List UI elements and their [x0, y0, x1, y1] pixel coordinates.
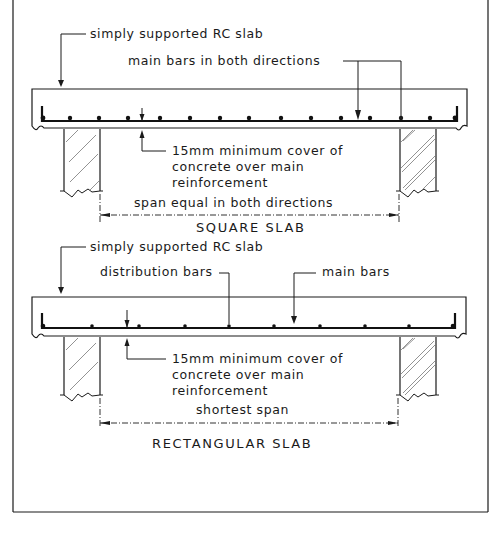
span-label: shortest span — [196, 402, 289, 417]
rectangular-slab-section: simply supported RC slab distribution ba… — [32, 239, 466, 451]
cover-label-line3: reinforcement — [172, 383, 268, 398]
square-slab-section: simply supported RC slab main bars in bo… — [32, 26, 467, 235]
span-label: span equal in both directions — [134, 195, 333, 210]
slab-body — [32, 297, 466, 338]
distribution-bars-label: distribution bars — [100, 264, 213, 279]
main-bars-leader — [343, 61, 403, 120]
cover-dimension — [140, 108, 167, 151]
slab-label: simply supported RC slab — [90, 239, 263, 254]
cover-label-line3: reinforcement — [172, 175, 268, 190]
rectangular-slab-caption: RECTANGULAR SLAB — [152, 436, 312, 451]
slab-label-leader — [58, 34, 86, 87]
cover-label-line1: 15mm minimum cover of — [172, 143, 343, 158]
cover-label-line1: 15mm minimum cover of — [172, 351, 343, 366]
left-support — [60, 337, 103, 401]
main-reinforcement — [41, 313, 456, 328]
left-support — [60, 129, 103, 197]
rc-slab-diagram: simply supported RC slab main bars in bo… — [0, 0, 504, 534]
square-slab-caption: SQUARE SLAB — [196, 220, 305, 235]
cover-dimension — [125, 310, 167, 359]
slab-label: simply supported RC slab — [90, 26, 263, 41]
slab-body — [32, 89, 467, 130]
distribution-bars-leader — [219, 273, 229, 324]
right-support — [396, 337, 439, 401]
main-bars-leader — [291, 273, 316, 324]
right-support — [396, 129, 439, 197]
main-bars-label: main bars in both directions — [128, 53, 320, 68]
cover-label-line2: concrete over main — [172, 159, 304, 174]
main-reinforcement — [41, 106, 458, 121]
cover-label-line2: concrete over main — [172, 367, 304, 382]
slab-label-leader — [58, 247, 86, 294]
main-bars-label: main bars — [322, 264, 390, 279]
